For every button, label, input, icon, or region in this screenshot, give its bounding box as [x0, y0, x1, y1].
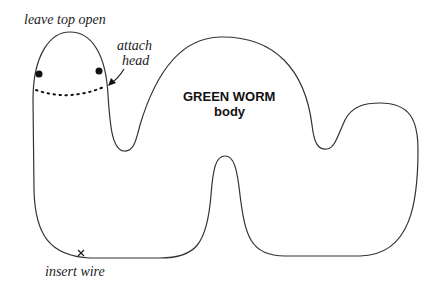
eye-dot-left [36, 71, 43, 78]
label-insert-wire: insert wire [45, 264, 105, 279]
worm-body-outline [33, 32, 418, 258]
label-attach: attach [117, 38, 152, 53]
worm-pattern-diagram: leave top open attach head GREEN WORM bo… [0, 0, 441, 292]
label-head: head [122, 53, 150, 68]
subtitle-body: body [214, 104, 246, 119]
title-green-worm: GREEN WORM [183, 89, 275, 104]
label-leave-top-open: leave top open [24, 12, 106, 27]
wire-x-marker-icon [78, 250, 84, 256]
eye-dot-right [96, 68, 103, 75]
attach-dotted-line [36, 86, 106, 95]
arrowhead-icon [108, 78, 116, 86]
